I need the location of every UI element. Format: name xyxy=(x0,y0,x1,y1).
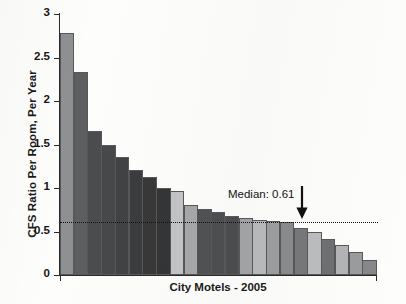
x-axis-title: City Motels - 2005 xyxy=(60,281,376,293)
bar xyxy=(170,191,184,275)
bar xyxy=(335,245,349,275)
bar xyxy=(252,220,266,275)
bar xyxy=(294,228,308,275)
bar xyxy=(156,188,170,275)
bar xyxy=(142,177,156,275)
x-axis-line xyxy=(59,275,376,276)
y-axis-tick-label: 0.5 xyxy=(10,224,50,236)
x-axis-end-tick xyxy=(60,275,61,281)
y-axis-tick-label: 0 xyxy=(10,267,50,279)
bar xyxy=(349,252,363,275)
median-annotation-label: Median: 0.61 xyxy=(228,188,295,200)
annotation-arrow-down-icon xyxy=(295,186,309,220)
y-axis-tick-label: 1 xyxy=(10,180,50,192)
median-reference-line xyxy=(60,222,378,223)
bar xyxy=(184,205,198,275)
bar xyxy=(74,72,88,275)
bar xyxy=(225,216,239,275)
bar xyxy=(101,145,115,275)
bar xyxy=(87,131,101,275)
bar xyxy=(60,33,74,275)
bar xyxy=(307,232,321,276)
y-axis-tick-label: 2 xyxy=(10,93,50,105)
bar xyxy=(280,222,294,275)
bar xyxy=(362,260,376,275)
chart-figure: CFS Ratio Per Room, Per Year 00.511.522.… xyxy=(0,0,406,304)
y-axis-tick-label: 2.5 xyxy=(10,50,50,62)
bar-series xyxy=(60,14,376,275)
y-axis-tick-label: 3 xyxy=(10,6,50,18)
y-axis-tick-label: 1.5 xyxy=(10,137,50,149)
bar xyxy=(197,209,211,275)
bar xyxy=(239,218,253,275)
bar xyxy=(321,239,335,275)
bar xyxy=(115,157,129,275)
x-axis-end-tick xyxy=(376,275,377,281)
bar xyxy=(266,221,280,275)
